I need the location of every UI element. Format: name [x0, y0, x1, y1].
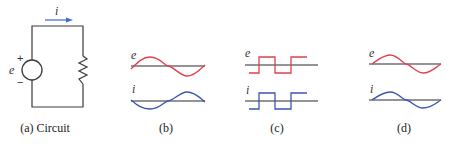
current-label: i: [370, 82, 373, 96]
figure-canvas: i + e − (a) Circuit e i (b) e i (c) e: [0, 0, 451, 146]
panel-c: e i (c): [245, 46, 318, 135]
minus-sign: −: [17, 76, 23, 88]
caption-d: (d): [397, 121, 411, 135]
current-label: i: [132, 82, 135, 96]
caption-c: (c): [270, 121, 283, 135]
plus-sign: +: [17, 52, 23, 64]
current-label: i: [55, 4, 58, 18]
circuit-wire: [32, 26, 83, 60]
voltage-label: e: [369, 46, 375, 60]
voltage-label: e: [131, 48, 137, 62]
source-label: e: [9, 63, 15, 77]
current-label: i: [246, 83, 249, 97]
caption-b: (b): [159, 121, 173, 135]
voltage-label: e: [245, 46, 251, 60]
current-arrow-icon: [45, 18, 73, 23]
circuit-wire: [32, 80, 83, 107]
resistor-icon: [79, 56, 87, 84]
panel-d: e i (d): [369, 46, 441, 135]
voltage-source-icon: [22, 60, 42, 80]
circuit-diagram: i + e − (a) Circuit: [9, 4, 87, 135]
caption-circuit: (a) Circuit: [20, 121, 70, 135]
panel-b: e i (b): [131, 48, 205, 135]
